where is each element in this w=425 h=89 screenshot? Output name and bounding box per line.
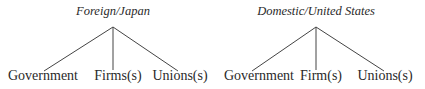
leaf-unions: Unions(s) (357, 68, 412, 84)
tree-domestic-united-states: Domestic/United States Government Firm(s… (212, 0, 425, 89)
leaf-government: Government (8, 68, 78, 84)
root-node-label: Foreign/Japan (76, 4, 150, 19)
tree-foreign-japan: Foreign/Japan Government Firms(s) Unions… (0, 0, 212, 89)
leaf-unions: Unions(s) (152, 68, 207, 84)
root-node-label: Domestic/United States (257, 4, 375, 19)
leaf-government: Government (224, 68, 294, 84)
leaf-firms: Firm(s) (300, 68, 342, 84)
leaf-firms: Firms(s) (94, 68, 141, 84)
